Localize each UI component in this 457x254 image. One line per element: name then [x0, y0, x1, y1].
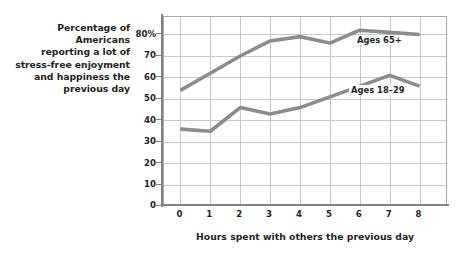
y-tick-label-30: 30: [116, 136, 156, 146]
y-tick-label-20: 20: [116, 158, 156, 168]
x-tick-label-8: 8: [409, 209, 429, 219]
caption-line-5: previous day: [4, 83, 130, 95]
x-axis-line: [161, 204, 449, 206]
x-tick-label-0: 0: [169, 209, 189, 219]
y-tick-label-0: 0: [116, 200, 156, 210]
caption-line-1: Percentage of Americans: [4, 22, 130, 46]
series-label-ages-65-plus: Ages 65+: [355, 35, 404, 45]
y-tick-label-60: 60: [116, 72, 156, 82]
caption-line-2: reporting a lot of: [4, 46, 130, 58]
y-tick-label-50: 50: [116, 93, 156, 103]
y-axis-line: [161, 14, 163, 207]
x-tick-label-4: 4: [289, 209, 309, 219]
x-tick-label-1: 1: [199, 209, 219, 219]
y-tick-label-10: 10: [116, 179, 156, 189]
x-tick-label-7: 7: [379, 209, 399, 219]
chart-caption: Percentage of Americans reporting a lot …: [4, 22, 130, 95]
x-axis-title: Hours spent with others the previous day: [163, 231, 447, 242]
caption-line-4: and happiness the: [4, 71, 130, 83]
series-lines: [164, 17, 448, 206]
plot-area: [163, 16, 447, 205]
series-line-ages-18-29: [180, 75, 419, 131]
caption-line-3: stress-free enjoyment: [4, 59, 130, 71]
x-tick-label-5: 5: [319, 209, 339, 219]
chart-container: Percentage of Americans reporting a lot …: [0, 0, 457, 254]
y-tick-label-40: 40: [116, 115, 156, 125]
y-tick-label-80: 80%: [116, 29, 156, 39]
x-tick-label-2: 2: [229, 209, 249, 219]
series-label-ages-18-29: Ages 18–29: [349, 85, 407, 95]
y-tick-label-70: 70: [116, 50, 156, 60]
x-tick-label-6: 6: [349, 209, 369, 219]
x-tick-label-3: 3: [259, 209, 279, 219]
